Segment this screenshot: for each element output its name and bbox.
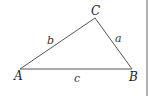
side-label-b: b [47,34,54,47]
vertex-label-a: A [13,69,23,83]
side-label-a: a [115,32,122,45]
side-label-c: c [74,72,80,85]
triangle-diagram: A B C b a c [0,0,149,96]
vertex-label-b: B [128,70,138,84]
vertex-label-c: C [91,4,100,18]
